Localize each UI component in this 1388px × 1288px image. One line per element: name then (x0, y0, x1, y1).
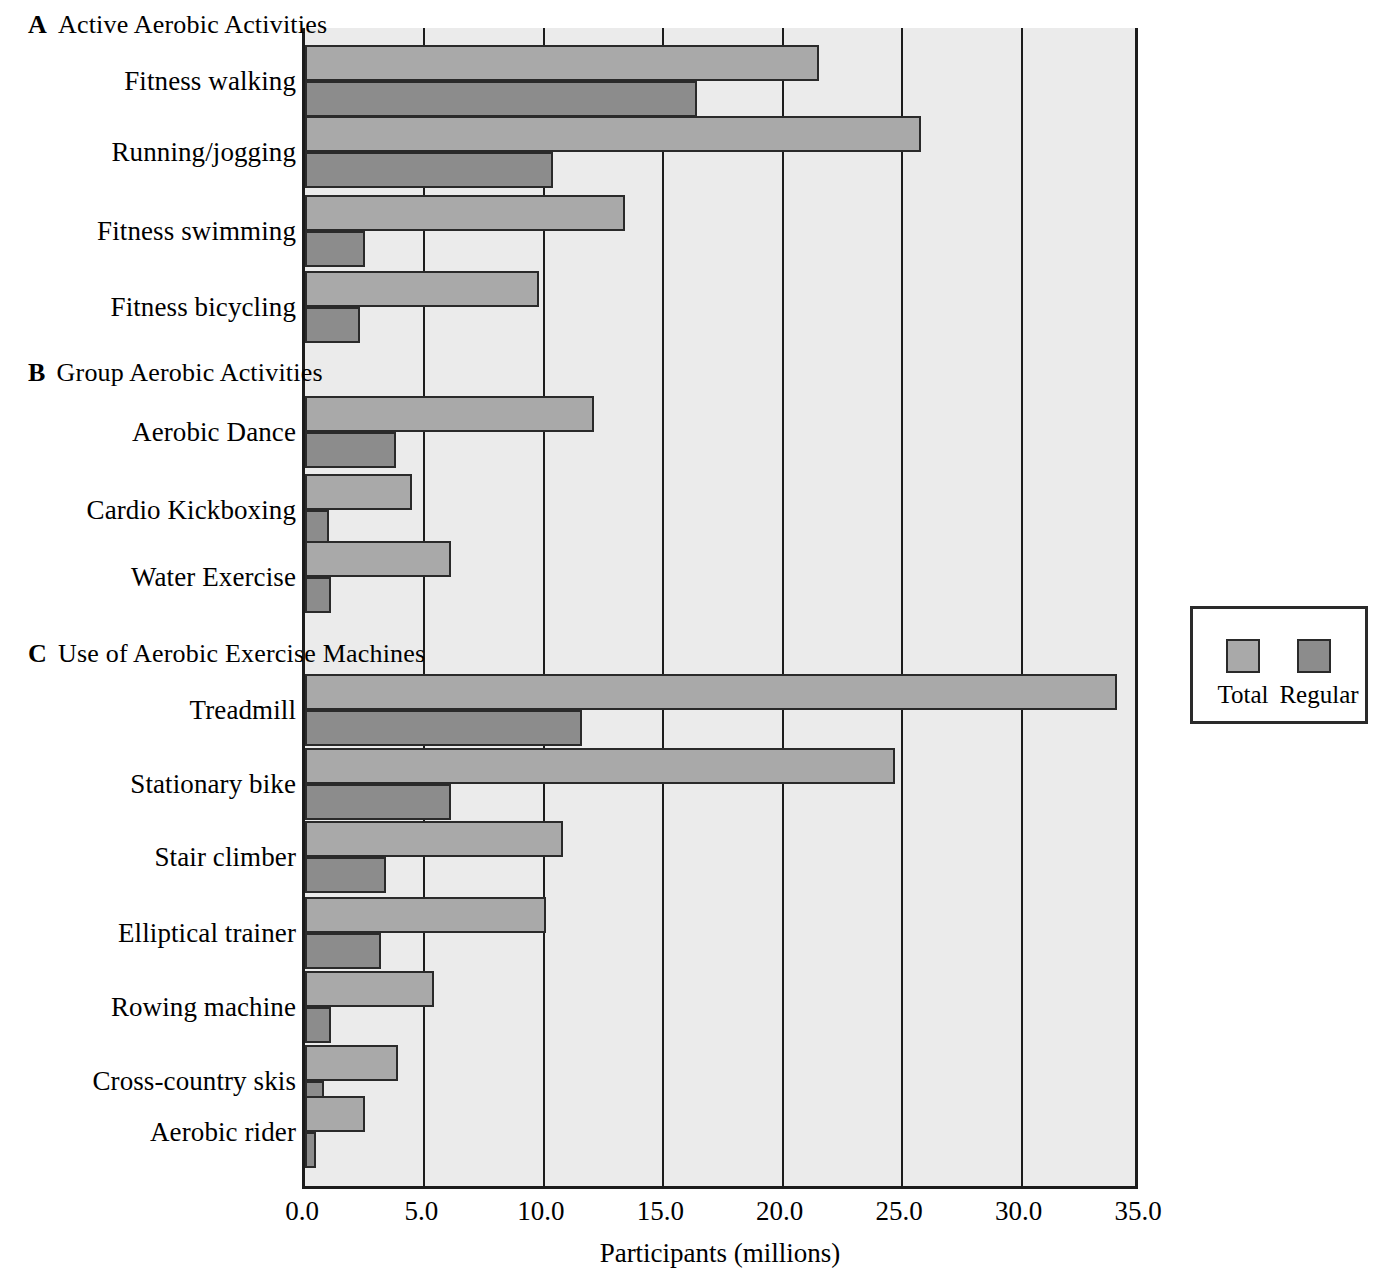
bar-regular (305, 1007, 331, 1043)
panel-header-a: AActive Aerobic Activities (28, 10, 327, 40)
bar-total (305, 541, 451, 577)
x-tick-35.0: 35.0 (1114, 1196, 1161, 1226)
x-axis-title: Participants (millions) (302, 1238, 1138, 1268)
legend-swatch-regular (1297, 639, 1331, 673)
bar-total (305, 1096, 365, 1132)
category-label: Aerobic rider (150, 1117, 296, 1147)
category-label: Aerobic Dance (132, 417, 296, 447)
category-label: Treadmill (190, 695, 296, 725)
legend-label-regular: Regular (1271, 681, 1367, 709)
bar-regular (305, 577, 331, 613)
category-label: Cardio Kickboxing (87, 495, 296, 525)
x-tick-10.0: 10.0 (517, 1196, 564, 1226)
bar-regular (305, 857, 386, 893)
category-label: Rowing machine (111, 992, 296, 1022)
bar-total (305, 45, 819, 81)
legend: Total Regular (1190, 606, 1368, 724)
bar-total (305, 116, 921, 152)
category-label: Water Exercise (131, 562, 296, 592)
bar-regular (305, 1132, 316, 1168)
category-label: Cross-country skis (92, 1066, 296, 1096)
x-tick-25.0: 25.0 (876, 1196, 923, 1226)
category-label: Stationary bike (130, 769, 296, 799)
bar-total (305, 821, 563, 857)
bar-total (305, 271, 539, 307)
plot-area (302, 28, 1138, 1189)
bar-total (305, 474, 412, 510)
category-label: Stair climber (154, 842, 296, 872)
bar-regular (305, 307, 360, 343)
bar-regular (305, 152, 553, 188)
bar-total (305, 971, 434, 1007)
panel-letter-b: B (28, 358, 46, 387)
bar-regular (305, 933, 381, 969)
gridline-30.0 (1021, 28, 1023, 1186)
gridline-15.0 (662, 28, 664, 1186)
aerobic-participation-figure: Fitness walkingRunning/joggingFitness sw… (0, 0, 1388, 1288)
panel-letter-a: A (28, 10, 47, 39)
bar-total (305, 897, 546, 933)
gridline-20.0 (782, 28, 784, 1186)
x-tick-0.0: 0.0 (285, 1196, 319, 1226)
category-label: Fitness bicycling (111, 292, 296, 322)
panel-title-c: Use of Aerobic Exercise Machines (58, 639, 425, 668)
panel-title-a: Active Aerobic Activities (58, 10, 327, 39)
bar-regular (305, 784, 451, 820)
gridline-25.0 (901, 28, 903, 1186)
panel-letter-c: C (28, 639, 47, 668)
x-tick-20.0: 20.0 (756, 1196, 803, 1226)
category-label: Fitness swimming (97, 216, 296, 246)
panel-title-b: Group Aerobic Activities (57, 358, 323, 387)
bar-total (305, 195, 625, 231)
category-label: Elliptical trainer (118, 918, 296, 948)
bar-total (305, 396, 594, 432)
x-tick-30.0: 30.0 (995, 1196, 1042, 1226)
bar-regular (305, 81, 697, 117)
x-tick-5.0: 5.0 (405, 1196, 439, 1226)
category-label: Running/jogging (111, 137, 296, 167)
category-label: Fitness walking (124, 66, 296, 96)
panel-header-b: BGroup Aerobic Activities (28, 358, 323, 388)
bar-regular (305, 710, 582, 746)
bar-total (305, 748, 895, 784)
bar-regular (305, 231, 365, 267)
bar-regular (305, 432, 396, 468)
bar-total (305, 1045, 398, 1081)
bar-total (305, 674, 1117, 710)
panel-header-c: CUse of Aerobic Exercise Machines (28, 639, 425, 669)
x-tick-15.0: 15.0 (637, 1196, 684, 1226)
legend-swatch-total (1226, 639, 1260, 673)
